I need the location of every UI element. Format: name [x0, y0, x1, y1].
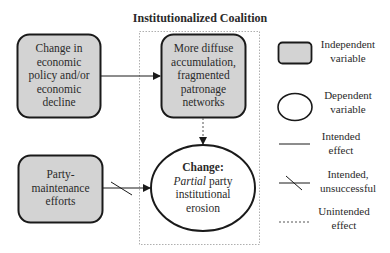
legend-dependent-icon: [278, 94, 312, 121]
label-line: More diffuse: [161, 42, 246, 56]
label-line: accumulation,: [161, 56, 246, 70]
legend-line: Unintended: [308, 205, 380, 219]
label-line: erosion: [151, 202, 255, 216]
label-line: economic: [17, 56, 101, 70]
label-line: decline: [17, 96, 101, 110]
label-line: Party-: [18, 168, 103, 182]
legend-unintended-label: Unintended effect: [308, 205, 380, 232]
legend-line: Intended,: [312, 168, 384, 182]
label-line: fragmented: [161, 69, 246, 83]
label-line: policy and/or: [17, 69, 101, 83]
label-line: Change in: [17, 42, 101, 56]
label-line: party: [206, 175, 233, 187]
legend-independent-label: Independent variable: [312, 38, 384, 65]
label-line: patronage: [161, 83, 246, 97]
diffuse-accumulation-label: More diffuse accumulation, fragmented pa…: [161, 42, 246, 110]
legend-independent-icon: [279, 43, 312, 64]
label-line: economic: [17, 83, 101, 97]
legend-line: Intended: [305, 130, 377, 144]
label-line: efforts: [18, 195, 103, 209]
label-line: institutional: [151, 188, 255, 202]
legend-line: variable: [312, 52, 384, 66]
legend-line: effect: [308, 219, 380, 233]
outcome-emphasis: Partial: [173, 175, 206, 187]
legend-dependent-label: Dependent variable: [312, 89, 384, 116]
legend-intended-label: Intended effect: [305, 130, 377, 157]
legend-line: unsuccessful: [312, 182, 384, 196]
diagram-title: Institutionalized Coalition: [100, 11, 300, 26]
outcome-heading: Change:: [182, 161, 224, 173]
label-line: networks: [161, 96, 246, 110]
legend-line: Dependent: [312, 89, 384, 103]
legend-unsuccessful-label: Intended, unsuccessful: [312, 168, 384, 195]
economic-change-label: Change in economic policy and/or economi…: [17, 42, 101, 110]
legend-line: effect: [305, 144, 377, 158]
outcome-label: Change: Partial party institutional eros…: [151, 161, 255, 215]
label-line: maintenance: [18, 182, 103, 196]
legend-line: Independent: [312, 38, 384, 52]
party-maintenance-label: Party- maintenance efforts: [18, 168, 103, 209]
legend-line: variable: [312, 103, 384, 117]
